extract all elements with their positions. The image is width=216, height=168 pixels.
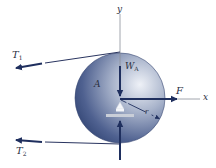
x-axis-label: x (203, 93, 208, 102)
weight-label: WA (125, 62, 139, 72)
y-axis-label: y (117, 5, 122, 14)
t1-subscript: 1 (19, 54, 23, 61)
free-body-diagram: y x T1 T2 WA F A r (0, 0, 216, 168)
force-f-label: F (176, 86, 183, 96)
diagram-canvas (0, 0, 216, 168)
t1-symbol: T (12, 49, 19, 60)
radius-label: r (145, 109, 148, 116)
weight-symbol: W (125, 61, 134, 71)
body-label-a: A (94, 80, 101, 89)
t2-symbol: T (16, 145, 23, 156)
t2-subscript: 2 (23, 150, 27, 157)
t1-label: T1 (12, 50, 23, 61)
t2-cable (16, 140, 120, 144)
t2-label: T2 (16, 146, 27, 157)
weight-subscript: A (134, 65, 138, 72)
